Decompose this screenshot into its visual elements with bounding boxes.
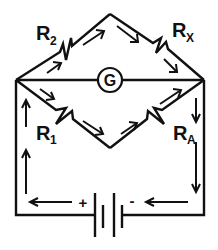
label-r2: R 2 <box>36 22 57 48</box>
svg-text:2: 2 <box>50 34 57 48</box>
battery-positive-sign: + <box>79 194 88 211</box>
arrow-icon <box>146 198 188 206</box>
battery-negative-sign: - <box>130 192 135 209</box>
svg-text:R: R <box>173 122 188 144</box>
label-rx: R X <box>172 19 194 45</box>
svg-text:A: A <box>187 133 196 147</box>
rx-resistor <box>110 14 204 80</box>
arrow-icon <box>22 150 30 194</box>
r2-resistor <box>16 14 110 80</box>
wheatstone-bridge-diagram: G + - <box>0 0 218 250</box>
label-r1: R 1 <box>36 122 57 147</box>
arrow-icon <box>47 62 61 73</box>
arrow-icon <box>30 198 72 206</box>
svg-text:R: R <box>36 122 51 144</box>
rx-branch <box>110 14 204 80</box>
galvanometer-label: G <box>104 72 116 89</box>
r1-resistor <box>16 80 110 148</box>
svg-text:1: 1 <box>50 133 57 147</box>
arrow-icon <box>192 98 200 122</box>
svg-text:X: X <box>186 31 194 45</box>
svg-text:R: R <box>172 19 187 41</box>
label-ra: R A <box>173 122 196 147</box>
arrow-icon <box>22 100 30 127</box>
arrow-icon <box>117 26 138 42</box>
r2-branch <box>16 14 110 80</box>
arrow-icon <box>83 30 104 45</box>
svg-text:R: R <box>36 22 51 44</box>
r1-branch <box>16 80 110 148</box>
arrow-icon <box>192 142 200 192</box>
arrow-icon <box>164 59 177 72</box>
arrow-icon <box>160 89 181 104</box>
